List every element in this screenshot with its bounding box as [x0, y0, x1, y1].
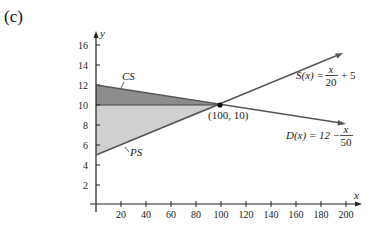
svg-text:10: 10	[78, 100, 88, 111]
svg-text:12: 12	[78, 80, 88, 91]
svg-text:20: 20	[326, 76, 338, 88]
svg-text:D(x) = 12 −: D(x) = 12 −	[285, 129, 340, 142]
demand-equation: D(x) = 12 − x 50	[285, 123, 353, 148]
svg-text:x: x	[343, 123, 349, 135]
ps-label: PS	[129, 146, 143, 158]
svg-text:20: 20	[116, 209, 126, 220]
part-label: (c)	[4, 7, 23, 26]
cs-label: CS	[122, 70, 135, 82]
y-axis-arrow-icon	[94, 31, 99, 38]
svg-text:S(x) =: S(x) =	[296, 69, 324, 82]
svg-text:100: 100	[214, 209, 229, 220]
svg-text:160: 160	[289, 209, 304, 220]
svg-text:200: 200	[339, 209, 354, 220]
svg-text:+ 5: + 5	[341, 69, 356, 81]
svg-text:14: 14	[78, 60, 88, 71]
y-axis-label: y	[99, 27, 105, 39]
svg-text:80: 80	[191, 209, 201, 220]
x-axis-arrow-icon	[355, 202, 362, 207]
svg-text:140: 140	[264, 209, 279, 220]
svg-text:180: 180	[314, 209, 329, 220]
supply-arrow-icon	[335, 53, 343, 59]
svg-text:4: 4	[83, 160, 88, 171]
equilibrium-label: (100, 10)	[208, 109, 249, 122]
svg-text:60: 60	[166, 209, 176, 220]
svg-text:x: x	[328, 63, 334, 75]
equilibrium-point	[217, 102, 222, 107]
svg-text:2: 2	[83, 180, 88, 191]
svg-text:8: 8	[83, 120, 88, 131]
supply-equation: S(x) = x 20 + 5	[296, 63, 356, 88]
svg-text:6: 6	[83, 140, 88, 151]
chart: (c) y x 20 40 60 80 100 120 140 160 180 …	[0, 0, 373, 226]
svg-text:120: 120	[239, 209, 254, 220]
svg-text:16: 16	[78, 40, 88, 51]
svg-text:50: 50	[341, 136, 353, 148]
x-axis-label: x	[353, 189, 359, 201]
svg-text:40: 40	[141, 209, 151, 220]
